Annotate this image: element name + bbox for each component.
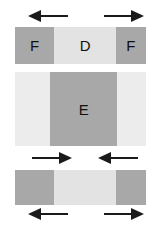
segment-f-right: F xyxy=(116,27,146,64)
segment-f-left-label: F xyxy=(30,38,39,53)
segment-e: E xyxy=(50,72,117,146)
arrow-bottom-right xyxy=(104,208,144,220)
arrow-mid-right xyxy=(98,152,138,164)
middle-bar: E xyxy=(15,72,146,146)
arrow-top-right xyxy=(104,10,144,22)
segment-d-label: D xyxy=(80,38,91,53)
bottom-bar xyxy=(15,170,146,205)
segment-f-right-label: F xyxy=(126,38,135,53)
segment-dark-right xyxy=(116,170,146,205)
arrow-mid-left xyxy=(32,152,72,164)
arrow-bottom-left xyxy=(28,208,68,220)
segment-dark-left xyxy=(15,170,54,205)
segment-d: D xyxy=(54,27,116,64)
arrow-top-left xyxy=(28,10,68,22)
segment-center xyxy=(54,170,116,205)
top-bar: FDF xyxy=(15,27,146,64)
segment-light-left xyxy=(15,72,50,146)
segment-f-left: F xyxy=(15,27,54,64)
segment-light-right xyxy=(117,72,146,146)
segment-e-label: E xyxy=(79,102,89,117)
diagram-canvas: FDFE xyxy=(0,0,162,227)
